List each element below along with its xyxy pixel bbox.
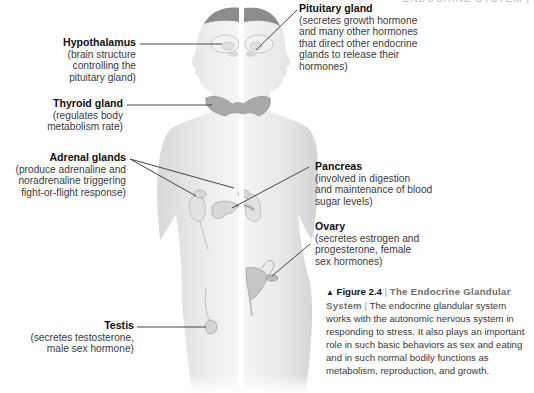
label-thyroid-name: Thyroid gland — [20, 98, 123, 110]
label-pituitary-desc-4: glands to release their — [299, 49, 399, 60]
label-ovary-desc-2: progesterone, female — [315, 244, 411, 255]
label-hypothalamus-desc-2: controlling the — [73, 60, 136, 71]
triangle-marker-icon: ▲ — [326, 288, 334, 297]
label-ovary-desc-3: sex hormones) — [315, 256, 382, 267]
caption-separator-2: | — [365, 300, 368, 311]
label-hypothalamus: Hypothalamus (brain structure controllin… — [30, 37, 136, 83]
label-hypothalamus-name: Hypothalamus — [30, 37, 136, 49]
label-adrenal-desc-1: (produce adrenaline and — [16, 164, 126, 175]
label-adrenal-desc-3: fight-or-flight response) — [21, 187, 126, 198]
label-testis-name: Testis — [10, 320, 134, 332]
label-pituitary-name: Pituitary gland — [299, 3, 449, 15]
label-thyroid-desc-2: metabolism rate) — [47, 121, 123, 132]
label-hypothalamus-desc-3: pituitary gland) — [69, 72, 136, 83]
label-thyroid: Thyroid gland (regulates body metabolism… — [20, 98, 123, 133]
label-pituitary-desc-3: that direct other endocrine — [299, 38, 417, 49]
label-pancreas-name: Pancreas — [315, 161, 475, 173]
label-pancreas-desc-3: sugar levels) — [315, 196, 373, 207]
label-pancreas-desc-2: and maintenance of blood — [315, 184, 432, 195]
label-pancreas: Pancreas (involved in digestion and main… — [315, 161, 475, 207]
label-testis: Testis (secretes testosterone, male sex … — [10, 320, 134, 355]
figure-number: Figure 2.4 — [337, 286, 382, 297]
caption-body: The endocrine glandular system works wit… — [326, 300, 524, 376]
label-testis-desc-2: male sex hormone) — [47, 343, 134, 354]
label-adrenal-desc-2: noradrenaline triggering — [18, 175, 126, 186]
figure-caption: ▲ Figure 2.4 | The Endocrine Glandular S… — [326, 285, 531, 377]
label-pancreas-desc-1: (involved in digestion — [315, 173, 410, 184]
label-ovary: Ovary (secretes estrogen and progesteron… — [315, 221, 455, 267]
label-pituitary-desc-1: (secretes growth hormone — [299, 15, 417, 26]
label-pituitary: Pituitary gland (secretes growth hormone… — [299, 3, 449, 73]
label-adrenal-name: Adrenal glands — [0, 152, 126, 164]
label-adrenal: Adrenal glands (produce adrenaline and n… — [0, 152, 126, 198]
caption-separator: | — [385, 286, 388, 297]
label-pituitary-desc-2: and many other hormones — [299, 26, 418, 37]
label-pituitary-desc-5: hormones) — [299, 61, 348, 72]
label-ovary-desc-1: (secretes estrogen and — [315, 233, 419, 244]
label-testis-desc-1: (secretes testosterone, — [30, 332, 134, 343]
label-thyroid-desc-1: (regulates body — [53, 110, 123, 121]
label-ovary-name: Ovary — [315, 221, 455, 233]
label-hypothalamus-desc-1: (brain structure — [67, 49, 136, 60]
